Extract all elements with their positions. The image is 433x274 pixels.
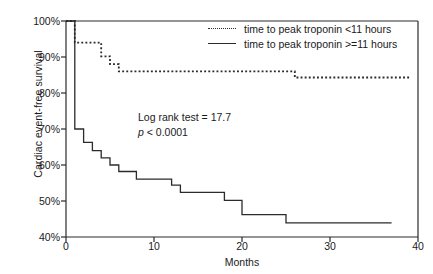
statistics-annotation: Log rank test = 17.7 p < 0.0001	[138, 110, 231, 140]
legend-item-troponin-lt-11: time to peak troponin <11 hours	[207, 21, 412, 36]
legend-label-troponin-lt-11: time to peak troponin <11 hours	[244, 23, 391, 35]
legend-label-troponin-gte-11: time to peak troponin >=11 hours	[244, 38, 397, 50]
kaplan-meier-figure: Cardiac event-free survival 100% 90% 80%…	[0, 0, 433, 274]
y-axis-ticks	[61, 21, 66, 237]
legend: time to peak troponin <11 hours time to …	[204, 19, 414, 53]
log-rank-test-text: Log rank test = 17.7	[138, 110, 231, 125]
dotted-line-swatch-icon	[207, 23, 237, 34]
p-value-rest: < 0.0001	[144, 126, 188, 138]
p-value-text: p < 0.0001	[138, 125, 231, 140]
legend-item-troponin-gte-11: time to peak troponin >=11 hours	[207, 36, 412, 51]
solid-line-swatch-icon	[207, 38, 237, 49]
x-axis-ticks	[66, 237, 418, 242]
